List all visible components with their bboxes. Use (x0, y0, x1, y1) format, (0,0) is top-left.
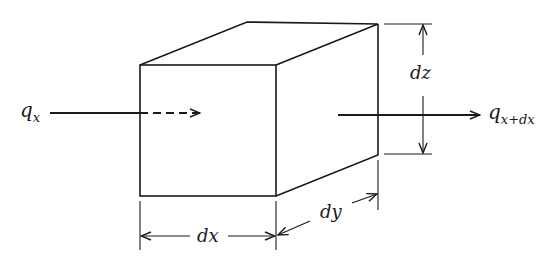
dy-label: dy (320, 203, 342, 221)
front-face (140, 65, 276, 196)
right-face-edges (276, 24, 378, 196)
dy-dimension (278, 160, 378, 235)
q-in-label: qx (20, 100, 40, 120)
q-in-main: q (20, 98, 33, 122)
dz-label: dz (410, 64, 431, 82)
q-out-main: q (488, 100, 501, 124)
dx-label: dx (197, 227, 219, 245)
dz-dimension (384, 24, 432, 154)
q-out-subscript: x+dx (501, 112, 535, 127)
box (140, 22, 378, 196)
q-out-label: qx+dx (488, 102, 535, 122)
q-in-subscript: x (33, 110, 40, 125)
control-volume-diagram (0, 0, 558, 266)
top-face-edges (140, 22, 378, 65)
